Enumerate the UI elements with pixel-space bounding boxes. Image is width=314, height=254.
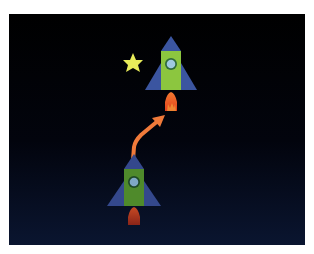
scene-illustration (9, 14, 305, 245)
motion-arrow-icon (133, 115, 165, 160)
space-scene (9, 14, 305, 245)
rocket-start-icon (107, 154, 161, 225)
star-icon (123, 53, 143, 72)
rocket-end-icon (145, 36, 197, 111)
